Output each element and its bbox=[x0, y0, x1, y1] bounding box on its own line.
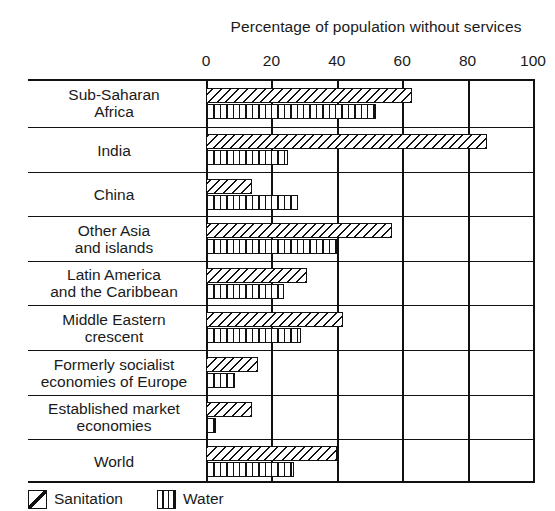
chart-row: China bbox=[28, 172, 533, 216]
chart-row: Latin Americaand the Caribbean bbox=[28, 261, 533, 305]
row-label-line: Sub-Saharan bbox=[28, 86, 200, 103]
x-tick-label-80: 80 bbox=[459, 52, 476, 70]
row-bars bbox=[206, 79, 533, 127]
row-label: Established marketeconomies bbox=[28, 400, 200, 434]
row-label-line: and the Caribbean bbox=[28, 283, 200, 300]
chart-title: Percentage of population without service… bbox=[206, 18, 546, 36]
bar-sanitation bbox=[206, 179, 252, 194]
row-label-line: Established market bbox=[28, 400, 200, 417]
row-label: Formerly socialisteconomies of Europe bbox=[28, 356, 200, 390]
row-label-line: India bbox=[28, 141, 200, 158]
row-bars bbox=[206, 127, 533, 172]
bar-water bbox=[206, 328, 301, 343]
row-label: India bbox=[28, 141, 200, 158]
bar-water bbox=[206, 150, 288, 165]
bar-water bbox=[206, 373, 235, 388]
sanitation-swatch-icon bbox=[28, 490, 47, 509]
gridline-100 bbox=[533, 79, 535, 483]
bar-water bbox=[206, 462, 294, 477]
chart-row: Established marketeconomies bbox=[28, 395, 533, 439]
row-bars bbox=[206, 350, 533, 395]
x-tick-label-0: 0 bbox=[202, 52, 211, 70]
x-tick-label-20: 20 bbox=[263, 52, 280, 70]
row-bars bbox=[206, 439, 533, 483]
plot-area: Sub-SaharanAfricaIndiaChinaOther Asiaand… bbox=[28, 79, 533, 483]
row-label: Latin Americaand the Caribbean bbox=[28, 266, 200, 300]
row-label-line: economies of Europe bbox=[28, 373, 200, 390]
water-swatch-icon bbox=[157, 490, 176, 509]
bar-sanitation bbox=[206, 446, 337, 461]
x-tick-label-100: 100 bbox=[520, 52, 546, 70]
bar-sanitation bbox=[206, 312, 343, 327]
bar-water bbox=[206, 104, 376, 119]
x-tick-label-60: 60 bbox=[394, 52, 411, 70]
row-label-line: and islands bbox=[28, 239, 200, 256]
row-label: Middle Easterncrescent bbox=[28, 311, 200, 345]
x-tick-label-40: 40 bbox=[328, 52, 345, 70]
legend-label: Water bbox=[183, 490, 224, 508]
row-label: China bbox=[28, 186, 200, 203]
bar-water bbox=[206, 418, 216, 433]
bar-water bbox=[206, 195, 298, 210]
legend-label: Sanitation bbox=[54, 490, 123, 508]
bar-sanitation bbox=[206, 357, 258, 372]
row-bars bbox=[206, 261, 533, 305]
chart-row: Middle Easterncrescent bbox=[28, 305, 533, 350]
row-bars bbox=[206, 216, 533, 261]
chart-row: Sub-SaharanAfrica bbox=[28, 79, 533, 127]
chart-row: World bbox=[28, 439, 533, 483]
row-bars bbox=[206, 305, 533, 350]
chart-row: Formerly socialisteconomies of Europe bbox=[28, 350, 533, 395]
bar-sanitation bbox=[206, 88, 412, 103]
legend-item-water: Water bbox=[157, 490, 224, 509]
bar-sanitation bbox=[206, 268, 307, 283]
row-label: Other Asiaand islands bbox=[28, 222, 200, 256]
legend-item-sanitation: Sanitation bbox=[28, 490, 123, 509]
row-label-line: World bbox=[28, 453, 200, 470]
row-label-line: China bbox=[28, 186, 200, 203]
bar-sanitation bbox=[206, 134, 487, 149]
row-label-line: Other Asia bbox=[28, 222, 200, 239]
row-bars bbox=[206, 172, 533, 216]
row-label-line: economies bbox=[28, 417, 200, 434]
row-label-line: Formerly socialist bbox=[28, 356, 200, 373]
chart-figure: Percentage of population without service… bbox=[0, 0, 555, 511]
chart-row: Other Asiaand islands bbox=[28, 216, 533, 261]
row-label: Sub-SaharanAfrica bbox=[28, 86, 200, 120]
bar-sanitation bbox=[206, 223, 392, 238]
bar-sanitation bbox=[206, 402, 252, 417]
row-label-line: Latin America bbox=[28, 266, 200, 283]
row-bars bbox=[206, 395, 533, 439]
x-axis-tick-labels: 020406080100 bbox=[206, 52, 533, 72]
chart-legend: SanitationWater bbox=[28, 488, 224, 510]
row-label-line: crescent bbox=[28, 328, 200, 345]
row-label-line: Middle Eastern bbox=[28, 311, 200, 328]
row-label-line: Africa bbox=[28, 103, 200, 120]
bar-water bbox=[206, 284, 284, 299]
row-label: World bbox=[28, 453, 200, 470]
bar-water bbox=[206, 239, 337, 254]
chart-row: India bbox=[28, 127, 533, 172]
